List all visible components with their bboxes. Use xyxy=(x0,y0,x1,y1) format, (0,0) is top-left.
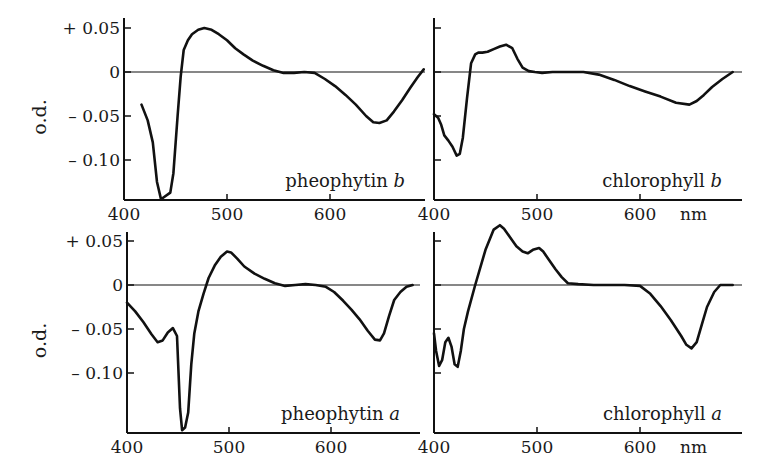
x-tick-label: 500 xyxy=(213,437,245,457)
y-tick-label: + 0.05 xyxy=(66,231,124,251)
spectrum-curve xyxy=(434,45,733,156)
x-tick-label: 400 xyxy=(418,204,450,224)
y-tick-label: 0 xyxy=(112,275,123,295)
x-tick-label: 500 xyxy=(211,204,243,224)
x-tick-label: 500 xyxy=(521,204,553,224)
panel-label: pheophytin a xyxy=(281,403,400,424)
x-tick-label: 400 xyxy=(108,204,140,224)
y-tick-label: – 0.10 xyxy=(68,150,120,170)
y-axis-label: o.d. xyxy=(28,323,50,358)
spectrum-curve xyxy=(434,225,733,367)
y-tick-label: – 0.05 xyxy=(71,319,123,339)
panel-label: pheophytin b xyxy=(285,170,405,191)
x-tick-label: 400 xyxy=(418,437,450,457)
panel-label: chlorophyll a xyxy=(603,403,722,424)
panel-chlorophyll-b: 400500600nmchlorophyll b xyxy=(418,18,742,224)
x-tick-label: 500 xyxy=(521,437,553,457)
panel-chlorophyll-a: 400500600nmchlorophyll a xyxy=(418,225,742,457)
x-unit-label: nm xyxy=(680,204,707,224)
x-tick-label: 600 xyxy=(315,437,347,457)
x-tick-label: 600 xyxy=(624,437,656,457)
panel-pheophytin-b: + 0.050– 0.05– 0.10400500600o.d.pheophyt… xyxy=(28,18,425,224)
panel-pheophytin-a: + 0.050– 0.05– 0.10400500600o.d.pheophyt… xyxy=(28,231,420,457)
y-tick-label: – 0.10 xyxy=(71,363,123,383)
x-tick-label: 600 xyxy=(314,204,346,224)
y-axis-label: o.d. xyxy=(28,99,50,134)
panel-label: chlorophyll b xyxy=(602,170,722,191)
y-tick-label: 0 xyxy=(109,62,120,82)
x-tick-label: 600 xyxy=(624,204,656,224)
difference-spectra-figure: + 0.050– 0.05– 0.10400500600o.d.pheophyt… xyxy=(0,0,760,475)
x-unit-label: nm xyxy=(680,437,707,457)
y-tick-label: – 0.05 xyxy=(68,106,120,126)
x-tick-label: 400 xyxy=(111,437,143,457)
y-tick-label: + 0.05 xyxy=(63,18,121,38)
